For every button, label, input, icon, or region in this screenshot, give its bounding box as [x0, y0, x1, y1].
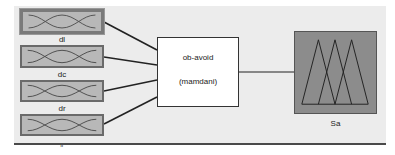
system-name: ob-avoid: [158, 53, 238, 62]
fis-system-block[interactable]: ob-avoid (mamdani): [157, 37, 239, 107]
membership-functions-icon: [22, 116, 102, 134]
membership-functions-icon: [22, 47, 102, 66]
input-variable-dc[interactable]: [20, 80, 104, 102]
membership-functions-icon: [22, 82, 102, 100]
triangular-membership-functions-icon: [295, 32, 376, 113]
system-type: (mamdani): [158, 77, 238, 86]
canvas-bottom-border: [14, 143, 386, 145]
input-label-dl: dl: [22, 35, 102, 44]
input-label-dr: dr: [22, 104, 102, 113]
input-variable-dl[interactable]: [20, 45, 104, 68]
membership-functions-icon: [23, 12, 101, 31]
output-label: Sa: [294, 119, 377, 128]
input-variable-1[interactable]: [20, 9, 104, 34]
input-label-dc: dc: [22, 70, 102, 79]
input-variable-dr[interactable]: [20, 114, 104, 136]
output-variable-sa[interactable]: [294, 31, 377, 114]
